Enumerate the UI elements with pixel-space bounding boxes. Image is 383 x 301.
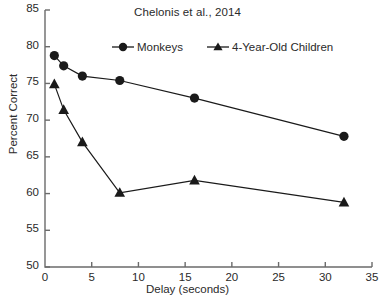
- x-axis-tick-label: 10: [126, 271, 150, 283]
- y-axis-tick-label: 65: [15, 149, 39, 161]
- legend-label-children: 4-Year-Old Children: [232, 41, 333, 53]
- legend-item-children: 4-Year-Old Children: [206, 38, 333, 56]
- x-axis-tick-label: 25: [267, 271, 291, 283]
- series-line: [54, 56, 344, 137]
- data-point-marker: [115, 76, 124, 85]
- y-axis-tick-label: 80: [15, 39, 39, 51]
- data-point-marker: [59, 61, 68, 70]
- data-point-marker: [50, 51, 59, 60]
- x-axis-tick-label: 30: [313, 271, 337, 283]
- data-point-marker: [339, 132, 348, 141]
- data-point-marker: [190, 94, 199, 103]
- data-point-marker: [77, 137, 88, 147]
- legend-item-monkeys: Monkeys: [111, 38, 183, 56]
- data-point-marker: [189, 175, 200, 185]
- x-axis-tick-label: 20: [220, 271, 244, 283]
- legend-label-monkeys: Monkeys: [137, 41, 183, 53]
- circle-marker-icon: [111, 40, 135, 54]
- chart-legend: Monkeys 4-Year-Old Children: [105, 38, 355, 56]
- x-axis-tick-label: 5: [80, 271, 104, 283]
- y-axis-tick-label: 55: [15, 222, 39, 234]
- y-axis-tick-label: 85: [15, 2, 39, 14]
- y-axis-tick-label: 75: [15, 75, 39, 87]
- data-point-marker: [58, 104, 69, 114]
- x-axis-tick-label: 15: [173, 271, 197, 283]
- y-axis-tick-label: 70: [15, 112, 39, 124]
- data-point-marker: [49, 79, 60, 89]
- y-axis-tick-label: 60: [15, 186, 39, 198]
- series-line: [54, 84, 344, 202]
- x-axis-tick-label: 35: [360, 271, 383, 283]
- x-axis-tick-label: 0: [33, 271, 57, 283]
- y-axis-tick-label: 50: [15, 259, 39, 271]
- data-point-marker: [78, 71, 87, 80]
- triangle-marker-icon: [206, 40, 230, 54]
